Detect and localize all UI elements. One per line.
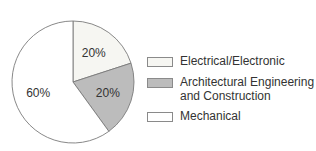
slice-label: 20% [82, 46, 106, 60]
legend-label-line1: Architectural Engineering [180, 75, 314, 89]
legend-item-electrical: Electrical/Electronic [147, 54, 285, 68]
legend-swatch [147, 78, 173, 88]
legend-label: Electrical/Electronic [180, 54, 285, 68]
slice-label: 60% [26, 86, 50, 100]
legend-item-aec: Architectural Engineering and Constructi… [147, 75, 314, 103]
legend-label-line2: and Construction [180, 89, 314, 103]
legend-swatch [147, 57, 173, 67]
legend-label: Mechanical [180, 109, 241, 123]
legend-item-mechanical: Mechanical [147, 109, 241, 123]
slice-label: 20% [96, 86, 120, 100]
legend-label: Architectural Engineering and Constructi… [180, 75, 314, 103]
pie-chart: 20%20%60% [0, 0, 150, 151]
legend-swatch [147, 112, 173, 122]
